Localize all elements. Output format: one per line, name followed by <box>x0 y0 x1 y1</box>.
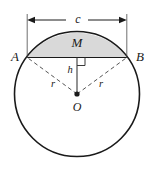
radius-left-label: r <box>51 78 56 89</box>
segment-area-label: M <box>71 35 84 50</box>
point-b-label: B <box>136 49 144 64</box>
geometry-canvas: c A B M h r r O <box>0 0 155 169</box>
point-a-label: A <box>10 49 19 64</box>
dimension-arrowhead-right <box>119 17 127 24</box>
chord-length-label: c <box>75 12 81 26</box>
right-angle-marker <box>77 58 85 66</box>
radius-right-label: r <box>99 78 104 89</box>
circular-segment-figure: c A B M h r r O <box>0 0 155 169</box>
dimension-arrowhead-left <box>27 17 35 24</box>
center-point-dot <box>74 91 79 96</box>
center-point-label: O <box>73 100 82 114</box>
height-label: h <box>67 64 72 75</box>
